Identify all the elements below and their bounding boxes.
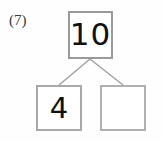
connector-line-right — [90, 59, 123, 85]
whole-box[interactable]: 10 — [68, 11, 113, 59]
worksheet-number-bond-figure: (7) 10 4 — [0, 0, 162, 142]
problem-number-label: (7) — [9, 12, 27, 28]
part-box-left[interactable]: 4 — [36, 85, 82, 131]
part-left-value: 4 — [50, 94, 68, 123]
connector-line-left — [59, 59, 90, 85]
part-box-right-blank[interactable] — [100, 85, 146, 131]
whole-value: 10 — [70, 19, 111, 50]
